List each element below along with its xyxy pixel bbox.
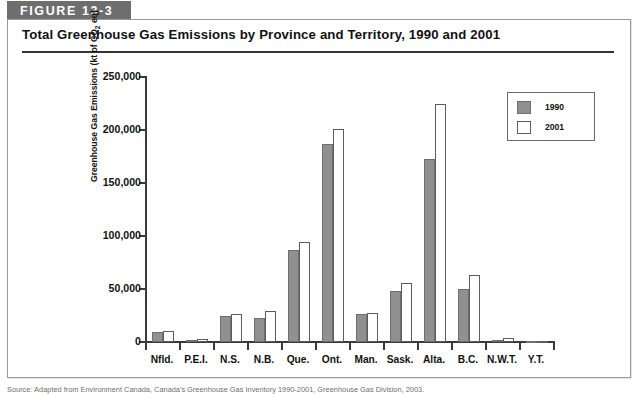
x-axis-tick-label: Ont. [315,354,349,365]
legend-entry-2001: 2001 [517,120,564,134]
x-axis-tick [315,341,317,350]
x-axis-tick [553,341,555,350]
source-note: Source: Adapted from Environment Canada,… [7,385,627,394]
x-axis-tick-label: P.E.I. [179,354,213,365]
x-axis-tick [417,341,419,350]
bar-que-2001 [299,242,310,342]
bar-pei-2001 [197,339,208,342]
y-axis-title: Greenhouse Gas Emissions (kt of CO2 eq) [89,10,101,182]
y-axis-title-main: Greenhouse Gas Emissions (kt of CO [89,29,99,182]
bar-alta-2001 [435,104,446,343]
y-axis-tick-label: 200,000 [103,123,141,135]
y-axis-tick-label: 50,000 [109,282,141,294]
x-axis-tick [349,341,351,350]
figure-card: FIGURE 13-3 Total Greenhouse Gas Emissio… [7,0,631,378]
y-axis-line [145,77,147,342]
bar-nb-2001 [265,311,276,342]
figure-frame: Total Greenhouse Gas Emissions by Provin… [7,19,631,378]
legend-entry-1990: 1990 [517,100,564,114]
bar-ns-2001 [231,314,242,342]
bar-nwt-2001 [503,338,514,342]
x-axis-tick [179,341,181,350]
bar-yt-1990 [526,341,537,343]
bar-nfld-1990 [152,332,163,342]
bar-ns-1990 [220,316,231,343]
x-axis-tick-label: Que. [281,354,315,365]
legend-swatch-1990 [517,101,531,114]
bar-man-1990 [356,314,367,342]
y-axis-tick-label: 0 [135,335,141,347]
chart-legend: 19902001 [507,92,595,141]
bar-ont-1990 [322,144,333,342]
y-axis-tick-label: 150,000 [103,176,141,188]
bar-bc-1990 [458,289,469,342]
x-axis-tick [213,341,215,350]
x-axis-tick [281,341,283,350]
y-axis-tick-label: 250,000 [103,70,141,82]
bar-man-2001 [367,313,378,342]
bar-nb-1990 [254,318,265,342]
x-axis-tick-label: Y.T. [519,354,553,365]
bar-nfld-2001 [163,331,174,342]
bar-yt-2001 [537,341,548,343]
x-axis-tick-label: Nfld. [145,354,179,365]
title-divider [22,51,614,53]
x-axis-tick-label: Sask. [383,354,417,365]
legend-swatch-2001 [517,121,531,134]
legend-label-1990: 1990 [545,102,564,112]
bar-sask-1990 [390,291,401,342]
x-axis-tick-label: Alta. [417,354,451,365]
x-axis-tick [247,341,249,350]
figure-number-banner: FIGURE 13-3 [7,1,131,20]
x-axis-tick-label: B.C. [451,354,485,365]
x-axis-tick [485,341,487,350]
y-axis-title-subscript: 2 [94,26,101,30]
legend-label-2001: 2001 [545,122,564,132]
x-axis-tick [383,341,385,350]
x-axis-tick [145,341,147,350]
x-axis-tick-label: N.W.T. [485,354,519,365]
y-axis-tick-label: 100,000 [103,229,141,241]
bar-nwt-1990 [492,340,503,342]
chart-plot-area: Greenhouse Gas Emissions (kt of CO2 eq) … [145,70,555,345]
bar-sask-2001 [401,283,412,342]
bar-ont-2001 [333,129,344,342]
y-axis-title-tail: eq) [89,10,99,25]
x-axis-tick [519,341,521,350]
bar-bc-2001 [469,275,480,342]
bar-que-1990 [288,250,299,342]
x-axis-tick-label: N.S. [213,354,247,365]
bar-alta-1990 [424,159,435,342]
x-axis-tick [451,341,453,350]
bar-pei-1990 [186,340,197,342]
x-axis-tick-label: N.B. [247,354,281,365]
x-axis-tick-label: Man. [349,354,383,365]
